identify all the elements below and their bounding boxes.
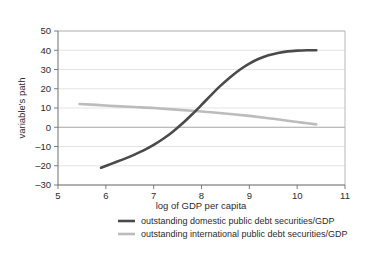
legend-label-2: outstanding international public debt se… xyxy=(141,229,348,239)
y-tick-label: 50 xyxy=(40,25,51,36)
y-tick-label: –30 xyxy=(35,179,51,190)
y-tick-label: 20 xyxy=(40,83,51,94)
y-axis-title: variable's path xyxy=(16,78,27,139)
y-tick-label: 40 xyxy=(40,45,51,56)
legend-label-1: outstanding domestic public debt securit… xyxy=(141,216,335,226)
x-tick-label: 10 xyxy=(292,190,303,201)
y-tick-label: 10 xyxy=(40,102,51,113)
x-tick-label: 9 xyxy=(247,190,252,201)
x-axis-title: log of GDP per capita xyxy=(156,200,247,211)
y-tick-label: 0 xyxy=(46,122,51,133)
y-tick-label: –20 xyxy=(35,160,51,171)
x-tick-label: 11 xyxy=(340,190,350,201)
y-tick-label: –10 xyxy=(35,141,51,152)
chart-figure: 567891011 –30–20–1001020304050 log of GD… xyxy=(0,0,374,264)
x-tick-label: 6 xyxy=(103,190,108,201)
y-tick-label: 30 xyxy=(40,64,51,75)
x-tick-label: 5 xyxy=(55,190,60,201)
